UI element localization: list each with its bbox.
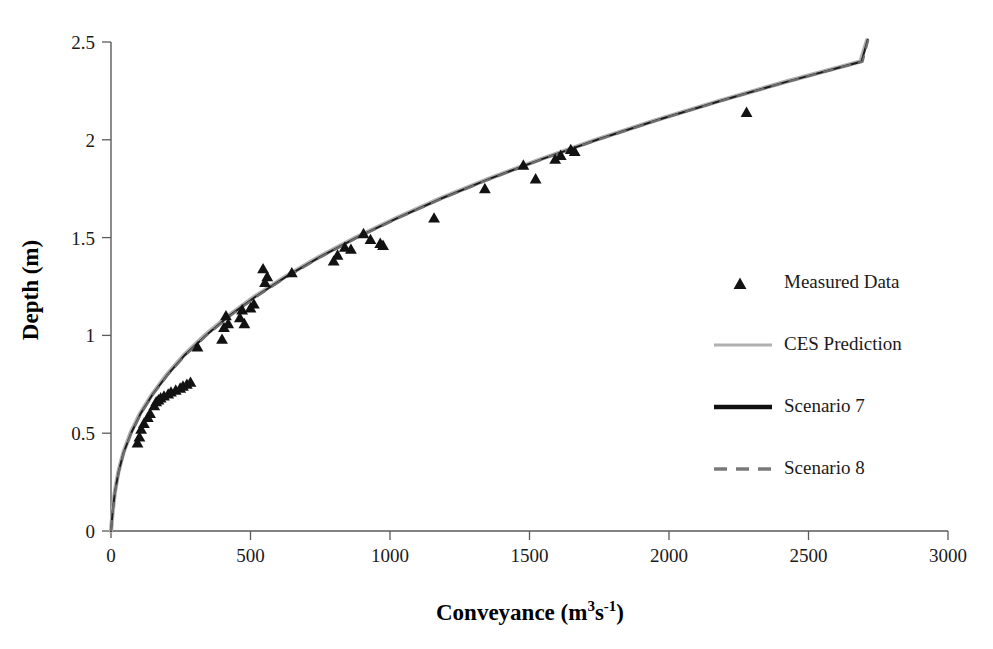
chart-page: 00.511.522.5 050010001500200025003000 De… (0, 0, 993, 649)
x-title-main: Conveyance (m (436, 600, 587, 625)
y-axis: 00.511.522.5 (71, 32, 111, 542)
y-tick-label-5: 2.5 (71, 32, 95, 53)
y-tick-label-1: 0.5 (71, 423, 95, 444)
x-tick-label-3: 1500 (511, 545, 549, 566)
conveyance-depth-chart: 00.511.522.5 050010001500200025003000 De… (0, 0, 993, 649)
y-axis-title-text: Depth (m) (18, 240, 43, 340)
x-axis: 050010001500200025003000 (106, 531, 967, 566)
y-tick-label-2: 1 (86, 325, 96, 346)
y-axis-ticks (102, 42, 111, 531)
series-line-scenario-8 (111, 40, 868, 531)
plot-series (111, 40, 868, 531)
series-line-scenario-7 (111, 40, 868, 531)
data-point-marker (428, 212, 440, 222)
legend-marker-measured-data (734, 278, 747, 289)
x-title-mid-s: s (595, 600, 604, 625)
x-title-sup-3: 3 (587, 598, 595, 614)
x-title-sup-neg1: -1 (604, 598, 617, 614)
series-markers-measured-data (132, 107, 753, 448)
x-axis-ticks (111, 531, 948, 540)
x-tick-label-5: 2500 (790, 545, 828, 566)
x-tick-label-0: 0 (106, 545, 116, 566)
x-title-tail: ) (616, 600, 624, 625)
data-point-marker (216, 333, 228, 343)
legend-label-ces-prediction: CES Prediction (784, 333, 902, 354)
legend-label-scenario-8: Scenario 8 (784, 457, 865, 478)
x-tick-label-1: 500 (236, 545, 265, 566)
x-axis-title-text: Conveyance (m3s-1) (436, 598, 624, 625)
x-axis-title: Conveyance (m3s-1) (436, 598, 624, 625)
x-tick-label-4: 2000 (650, 545, 688, 566)
legend-label-measured-data: Measured Data (784, 271, 900, 292)
y-axis-tick-labels: 00.511.522.5 (71, 32, 95, 542)
y-axis-title: Depth (m) (18, 240, 43, 340)
data-point-marker (530, 173, 542, 183)
series-line-ces-prediction (111, 40, 867, 531)
y-tick-label-0: 0 (86, 521, 96, 542)
data-point-marker (741, 107, 753, 117)
x-tick-label-2: 1000 (371, 545, 409, 566)
x-tick-label-6: 3000 (929, 545, 967, 566)
y-tick-label-4: 2 (86, 130, 96, 151)
chart-legend: Measured DataCES PredictionScenario 7Sce… (714, 271, 902, 478)
x-axis-tick-labels: 050010001500200025003000 (106, 545, 967, 566)
legend-label-scenario-7: Scenario 7 (784, 395, 865, 416)
data-point-marker (479, 183, 491, 193)
y-tick-label-3: 1.5 (71, 228, 95, 249)
